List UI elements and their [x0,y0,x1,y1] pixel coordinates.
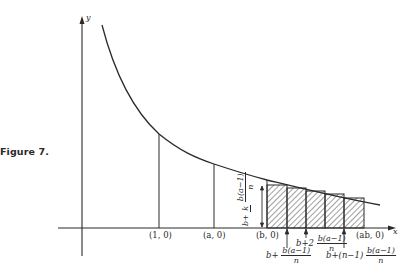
y-axis [80,16,85,256]
point-label-ab-0: (ab, 0) [356,230,384,240]
y-axis-label: y [86,13,91,22]
figure-caption: Figure 7. [0,146,49,157]
annotation-vertical-height: b+ k b(a−1)n [236,172,255,226]
annotation-last-step: b+(n−1) b(a−1)n [326,246,396,265]
point-label-b-0: (b, 0) [256,230,279,240]
y-axis-arrow-icon [80,16,85,24]
figure-hyperbola-area [0,0,402,274]
point-label-1-0: (1, 0) [149,230,172,240]
point-label-a-0: (a, 0) [203,230,226,240]
x-axis-label: x [393,227,398,236]
